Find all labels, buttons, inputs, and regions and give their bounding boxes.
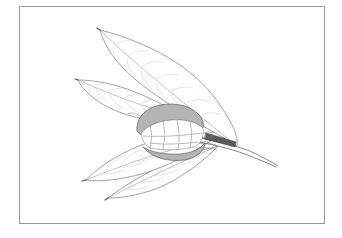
botanical-illustration <box>0 0 342 238</box>
